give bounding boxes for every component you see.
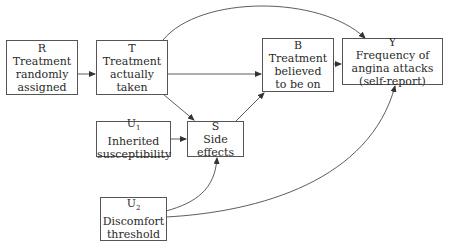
node-s-symbol: S bbox=[188, 120, 243, 133]
node-u1-subscript: 1 bbox=[136, 124, 140, 132]
node-u2-subscript: 2 bbox=[136, 204, 140, 212]
node-b: B Treatment believed to be on bbox=[262, 38, 334, 92]
node-t-line: Treatment bbox=[97, 55, 167, 68]
node-y: Y Frequency of angina attacks (self-repo… bbox=[342, 38, 443, 85]
node-y-line: Frequency of bbox=[343, 49, 442, 62]
node-u1: U1 Inherited susceptibility bbox=[96, 121, 171, 157]
node-y-line: (self-report) bbox=[343, 75, 442, 88]
node-r-symbol: R bbox=[7, 42, 77, 55]
node-b-symbol: B bbox=[263, 39, 333, 52]
node-t-line: actually bbox=[97, 68, 167, 81]
node-s: S Side effects bbox=[187, 121, 244, 157]
node-b-line: to be on bbox=[263, 78, 333, 91]
node-u1-symbol: U1 bbox=[97, 117, 170, 135]
node-s-line: effects bbox=[188, 146, 243, 159]
node-u2-symbol: U2 bbox=[101, 197, 166, 215]
node-r-line: randomly bbox=[7, 68, 77, 81]
node-u2: U2 Discomfort threshold bbox=[100, 197, 167, 241]
edge-s-b bbox=[236, 93, 264, 121]
node-b-line: Treatment bbox=[263, 52, 333, 65]
node-u2-line: threshold bbox=[101, 228, 166, 241]
node-u2-letter: U bbox=[127, 197, 136, 210]
node-t-line: taken bbox=[97, 81, 167, 94]
node-b-line: believed bbox=[263, 65, 333, 78]
node-u1-letter: U bbox=[127, 117, 136, 130]
node-t: T Treatment actually taken bbox=[96, 40, 168, 95]
node-r-line: assigned bbox=[7, 81, 77, 94]
node-r-line: Treatment bbox=[7, 55, 77, 68]
node-u1-line: susceptibility bbox=[97, 148, 170, 161]
node-s-line: Side bbox=[188, 133, 243, 146]
node-u2-line: Discomfort bbox=[101, 215, 166, 228]
node-y-symbol: Y bbox=[343, 36, 442, 49]
node-r: R Treatment randomly assigned bbox=[6, 40, 78, 95]
edge-u2-s bbox=[166, 158, 217, 211]
node-u1-line: Inherited bbox=[97, 135, 170, 148]
node-t-symbol: T bbox=[97, 42, 167, 55]
edge-t-y bbox=[163, 6, 365, 40]
node-y-line: angina attacks bbox=[343, 62, 442, 75]
